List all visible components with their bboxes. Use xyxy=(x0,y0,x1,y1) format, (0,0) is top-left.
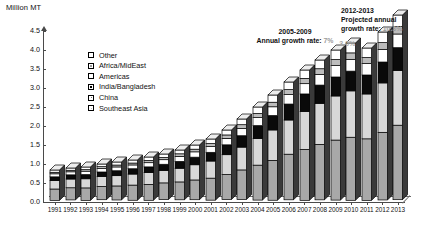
legend-item-label: Other xyxy=(99,52,117,59)
bar-geometry xyxy=(268,90,285,202)
bar-segment-china xyxy=(144,172,154,184)
bar-segment-china xyxy=(315,103,325,144)
bar-geometry xyxy=(81,162,98,202)
bar-segment-india xyxy=(97,172,107,177)
bar-segment-india xyxy=(315,85,325,103)
bar-segment-china xyxy=(190,165,200,180)
bar-segment-sea xyxy=(112,186,122,200)
bar-segment-sea xyxy=(128,185,138,200)
bar-segment-sea xyxy=(331,140,341,200)
legend-item-china[interactable]: China xyxy=(88,92,155,103)
x-axis-tick xyxy=(304,202,305,205)
bar-segment-sea xyxy=(393,126,403,200)
bar-segment-other xyxy=(237,119,247,125)
bar-1996 xyxy=(128,162,138,202)
bar-2000 xyxy=(190,147,200,202)
bar-segment-sea xyxy=(50,189,60,200)
bar-segment-china xyxy=(284,120,294,154)
bar-segment-india xyxy=(128,168,138,173)
bar-segment-sea xyxy=(300,149,310,200)
bar-segment-china xyxy=(175,168,185,182)
legend-item-india[interactable]: India/Bangladesh xyxy=(88,82,155,93)
bar-segment-sea xyxy=(253,165,263,200)
bar-geometry xyxy=(97,159,114,202)
x-axis-tick xyxy=(336,202,337,205)
annotation-right-line3: growth rate: 10.3% xyxy=(341,24,421,33)
bar-segment-amer xyxy=(315,75,325,86)
bar-segment-amer xyxy=(222,139,232,145)
x-axis-tick xyxy=(117,202,118,205)
legend-swatch-icon xyxy=(88,84,94,90)
bar-2010 xyxy=(346,45,356,202)
legend-item-label: Africa/MidEast xyxy=(99,62,146,69)
bar-segment-china xyxy=(331,96,341,140)
bar-segment-amer xyxy=(144,162,154,166)
bar-segment-sea xyxy=(222,175,232,200)
legend-item-afr[interactable]: Africa/MidEast xyxy=(88,61,155,72)
bar-1997 xyxy=(144,159,154,202)
bar-2002 xyxy=(222,132,232,202)
bar-segment-china xyxy=(237,148,247,171)
bar-segment-india xyxy=(222,145,232,155)
bar-2006 xyxy=(284,84,294,202)
bar-2007 xyxy=(300,72,310,202)
bar-segment-sea xyxy=(378,132,388,200)
bar-segment-sea xyxy=(206,178,216,200)
bar-geometry xyxy=(237,114,254,202)
bar-segment-china xyxy=(362,94,372,139)
bar-geometry xyxy=(362,43,379,202)
bar-segment-india xyxy=(393,48,403,71)
x-axis-tick xyxy=(55,202,56,205)
bar-2008 xyxy=(315,62,325,202)
bar-segment-sea xyxy=(97,187,107,200)
x-axis-tick xyxy=(382,202,383,205)
legend-item-label: India/Bangladesh xyxy=(99,83,155,90)
bar-segment-sea xyxy=(175,182,185,200)
bar-segment-sea xyxy=(284,154,294,200)
annotation-mid-line1: 2005-2009 xyxy=(236,27,354,36)
legend-item-sea[interactable]: Southeast Asia xyxy=(88,103,155,114)
bar-geometry xyxy=(393,10,410,202)
bar-segment-other xyxy=(284,82,294,90)
bar-segment-sea xyxy=(81,187,91,200)
bar-geometry xyxy=(346,38,363,202)
bar-segment-india xyxy=(331,77,341,96)
bar-geometry xyxy=(222,125,239,202)
bar-geometry xyxy=(284,77,301,202)
bar-2003 xyxy=(237,121,247,202)
x-axis-tick xyxy=(273,202,274,205)
legend-swatch-icon xyxy=(88,105,94,111)
bar-segment-china xyxy=(66,179,76,188)
bar-geometry xyxy=(66,163,83,202)
bar-geometry xyxy=(50,165,67,202)
bar-segment-amer xyxy=(112,167,122,171)
bar-segment-afr xyxy=(175,154,185,157)
bar-1999 xyxy=(175,152,185,202)
bar-segment-china xyxy=(112,176,122,186)
bar-geometry xyxy=(175,145,192,202)
bar-2011 xyxy=(362,50,372,202)
bar-segment-sea xyxy=(190,180,200,200)
bar-segment-india xyxy=(206,152,216,161)
bar-segment-amer xyxy=(237,129,247,136)
legend-item-label: Southeast Asia xyxy=(99,105,148,112)
legend-item-label: China xyxy=(99,94,118,101)
bar-segment-china xyxy=(159,171,169,184)
bar-segment-china xyxy=(128,174,138,185)
bar-segment-india xyxy=(284,104,294,120)
x-axis-tick-label: 2013 xyxy=(387,207,409,213)
bar-geometry xyxy=(112,157,129,202)
bar-segment-india xyxy=(50,176,60,180)
bar-segment-china xyxy=(222,155,232,175)
bar-segment-amer xyxy=(393,34,403,48)
bar-segment-india xyxy=(81,174,91,178)
legend-item-other[interactable]: Other xyxy=(88,50,155,61)
x-axis-tick xyxy=(367,202,368,205)
legend-item-amer[interactable]: Americas xyxy=(88,71,155,82)
bar-segment-amer xyxy=(346,59,356,71)
bar-segment-afr xyxy=(284,90,294,95)
bar-segment-other xyxy=(112,162,122,165)
bar-2013 xyxy=(393,17,403,202)
bar-1998 xyxy=(159,156,169,202)
bar-segment-china xyxy=(378,83,388,132)
